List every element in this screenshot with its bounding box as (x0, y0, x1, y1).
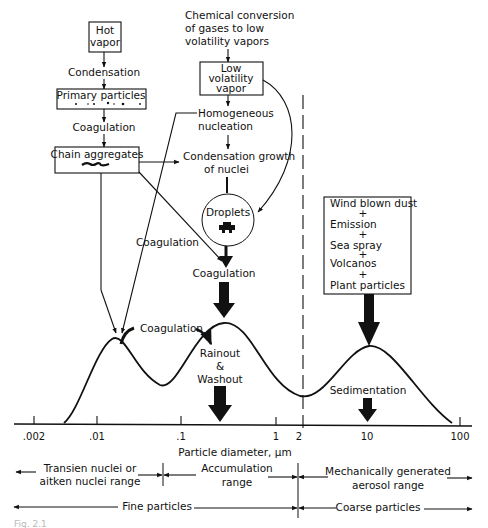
droplets-circle: Droplets (202, 194, 254, 246)
chem-line3: volatility vapors (185, 35, 269, 47)
big-arrow-head-1 (213, 303, 235, 318)
of-nuclei-label: of nuclei (204, 163, 249, 175)
figure-caption-fragment: Fig. 2.1 (14, 519, 47, 528)
src-plant: Plant particles (330, 279, 405, 291)
primary-particles-label: Primary particles (57, 89, 146, 101)
chain-aggregates-label: Chain aggregates (51, 148, 144, 160)
droplets-label: Droplets (206, 206, 250, 218)
sed-arrow-head (358, 409, 377, 422)
coarse-particles-label: Coarse particles (336, 501, 421, 513)
condensation-label: Condensation (68, 66, 140, 78)
tick-label-001: .01 (89, 431, 105, 442)
arrow-chain-to-nuclei-peak (101, 290, 116, 333)
accumulation-line1: Accumulation (201, 462, 273, 474)
big-arrow-stem-3 (214, 386, 226, 406)
condensation-growth-label: Condensation growth (183, 150, 295, 162)
mechanical-line1: Mechanically generated (325, 465, 451, 477)
arrow-lvv-to-droplets (258, 80, 292, 212)
coagulation-label-1: Coagulation (73, 121, 136, 133)
aerosol-size-distribution-diagram: Hot vapor Condensation Primary particles… (0, 0, 488, 528)
washout-label: Washout (197, 373, 242, 385)
tick-label-01: .1 (176, 431, 186, 442)
chem-line1: Chemical conversion (185, 9, 294, 21)
chem-line2: of gases to low (185, 22, 265, 34)
x-axis (14, 424, 472, 426)
src-emission: Emission (330, 218, 377, 230)
sedimentation-label: Sedimentation (330, 384, 407, 396)
ampersand-label: & (216, 360, 224, 372)
big-arrow-stem-1 (219, 282, 229, 304)
chain-aggregates-box: Chain aggregates (51, 147, 144, 173)
coagulation-label-left: Coagulation (136, 236, 199, 248)
hot-vapor-box: Hot vapor (89, 22, 121, 52)
coagulation-label-mid: Coagulation (193, 267, 256, 279)
mechanical-sources-box: Wind blown dust + Emission + Sea spray +… (324, 197, 417, 294)
lvv-line3: vapor (216, 82, 247, 94)
homogeneous-label: Homogeneous (198, 107, 274, 119)
arrow-nucleation-to-nuclei-peak (122, 113, 197, 333)
big-arrow-head-3 (208, 405, 232, 422)
chemical-conversion-text: Chemical conversion of gases to low vola… (185, 9, 294, 47)
tick-label-2: 2 (296, 431, 302, 442)
transient-line2: aitken nuclei range (40, 475, 141, 487)
fine-particles-label: Fine particles (122, 500, 192, 512)
tick-label-0002: .002 (23, 431, 45, 442)
src-sea-spray: Sea spray (330, 239, 382, 251)
big-arrow-head-2 (358, 322, 380, 346)
hot-vapor-line2: vapor (90, 36, 121, 48)
low-volatility-vapor-box: Low volatility vapor (200, 62, 263, 95)
nucleation-label: nucleation (198, 120, 253, 132)
hot-vapor-line1: Hot (96, 24, 114, 36)
tick-label-1: 1 (273, 431, 279, 442)
src-wind: Wind blown dust (330, 197, 417, 209)
rainout-label: Rainout (200, 347, 240, 359)
tick-label-10: 10 (361, 431, 374, 442)
sed-arrow-stem (363, 398, 372, 410)
primary-particles-box: Primary particles (57, 89, 146, 109)
tick-label-100: 100 (450, 431, 469, 442)
src-volcanos: Volcanos (330, 257, 376, 269)
mechanical-line2: aerosol range (352, 479, 424, 491)
transient-line1: Transien nuclei or (43, 462, 137, 474)
big-arrow-stem-2 (364, 294, 374, 324)
x-axis-title: Particle diameter, μm (178, 446, 291, 458)
accumulation-line2: range (222, 476, 253, 488)
coagulation-label-peak: Coagulation (140, 322, 203, 334)
